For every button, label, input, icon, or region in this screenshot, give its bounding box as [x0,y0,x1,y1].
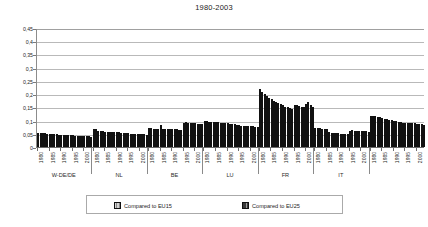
x-axis-tick-mark [381,148,382,151]
group-separator [258,148,259,174]
bar [423,125,425,147]
x-axis-tick-label: 1990 [284,152,289,163]
x-axis-tick-mark [183,148,184,151]
x-axis-tick-mark [326,148,327,151]
x-axis-group-label: W-DE/DE [52,172,76,178]
x-axis-tick-label: 1995 [74,152,79,163]
group-separator [313,148,314,174]
x-axis-tick-label: 1990 [173,152,178,163]
x-axis-tick-label: 1990 [118,152,123,163]
x-axis-tick-mark [238,148,239,151]
x-axis-tick-mark [194,148,195,151]
x-axis-tick-mark [104,148,105,151]
chart-container: 1980-2003 0,450,40,350,30,250,20,150,10,… [0,0,428,227]
x-axis-group-label: NL [116,172,123,178]
plot-area [36,29,424,148]
x-axis-tick-label: 1995 [240,152,245,163]
legend-swatch-icon-eu15 [114,202,121,209]
x-axis-tick-label: 1995 [129,152,134,163]
x-axis-tick-mark [259,148,260,151]
y-axis-ticks [0,29,36,148]
x-axis-tick-label: 1985 [217,152,222,163]
x-axis-tick-mark [294,148,295,151]
x-axis-tick-label: 1990 [62,152,67,163]
x-axis-tick-mark [116,148,117,151]
legend-label-eu15: Compared to EU15 [124,203,172,209]
x-axis-tick-label: 1990 [339,152,344,163]
x-axis-tick-mark [349,148,350,151]
bars-layer [37,29,424,147]
x-axis-tick-label: 1980 [205,152,210,163]
x-axis-tick-label: 1980 [316,152,321,163]
x-axis-tick-label: 2000 [252,152,257,163]
x-axis-group-label: IT [338,172,343,178]
x-axis-tick-mark [404,148,405,151]
x-axis-tick-mark [72,148,73,151]
x-axis-tick-label: 1980 [372,152,377,163]
x-axis-tick-mark [305,148,306,151]
x-axis-tick-mark [148,148,149,151]
x-axis-tick-label: 1990 [229,152,234,163]
x-axis-tick-mark [393,148,394,151]
x-axis-tick-label: 1995 [296,152,301,163]
x-axis-group-label: FR [282,172,289,178]
group-separator [369,148,370,174]
x-axis-tick-label: 1985 [106,152,111,163]
x-axis-tick-label: 1980 [95,152,100,163]
legend-entry-eu25: Compared to EU25 [242,202,300,209]
x-axis-tick-label: 2000 [307,152,312,163]
x-axis-tick-label: 1980 [261,152,266,163]
x-axis-tick-mark [416,148,417,151]
x-axis-tick-label: 1985 [272,152,277,163]
x-axis-tick-mark [227,148,228,151]
x-axis-tick-label: 1985 [328,152,333,163]
x-axis-tick-label: 1990 [395,152,400,163]
x-axis-tick-label: 1980 [39,152,44,163]
x-axis-tick-label: 1985 [51,152,56,163]
x-axis-tick-mark [370,148,371,151]
chart-legend: Compared to EU15 Compared to EU25 [86,195,343,214]
x-axis-tick-mark [282,148,283,151]
x-axis-tick-mark [60,148,61,151]
x-axis-tick-label: 1980 [150,152,155,163]
x-axis-tick-label: 1995 [406,152,411,163]
x-axis-tick-mark [360,148,361,151]
x-axis-tick-label: 2000 [85,152,90,163]
x-axis-tick-mark [37,148,38,151]
x-axis-group-label: BE [171,172,178,178]
x-axis-tick-label: 2000 [362,152,367,163]
x-axis-tick-mark [203,148,204,151]
x-axis-tick-mark [270,148,271,151]
x-axis-tick-mark [337,148,338,151]
x-axis-tick-mark [139,148,140,151]
x-axis-tick-mark [314,148,315,151]
x-axis: 19801985199019952000W-DE/DE1980198519901… [36,148,424,176]
x-axis-tick-mark [83,148,84,151]
x-axis-tick-label: 1995 [185,152,190,163]
chart-title: 1980-2003 [0,3,428,12]
x-axis-tick-label: 2000 [418,152,423,163]
x-axis-tick-mark [127,148,128,151]
x-axis-tick-mark [215,148,216,151]
x-axis-tick-label: 1995 [351,152,356,163]
x-axis-tick-mark [171,148,172,151]
x-axis-tick-label: 1985 [383,152,388,163]
legend-entry-eu15: Compared to EU15 [114,202,172,209]
x-axis-group-label: LU [226,172,233,178]
x-axis-tick-mark [250,148,251,151]
x-axis-tick-mark [49,148,50,151]
group-separator [147,148,148,174]
legend-swatch-icon-eu25 [242,202,249,209]
x-axis-tick-label: 1985 [162,152,167,163]
x-axis-tick-mark [160,148,161,151]
x-axis-tick-mark [93,148,94,151]
x-axis-tick-label: 2000 [141,152,146,163]
x-axis-tick-label: 2000 [196,152,201,163]
group-separator [91,148,92,174]
legend-label-eu25: Compared to EU25 [252,203,300,209]
